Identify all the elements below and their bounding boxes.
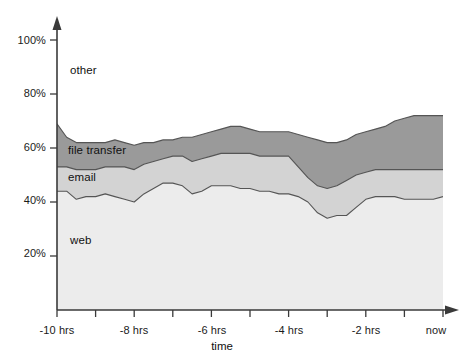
x-tick-label-now: now: [426, 324, 446, 336]
series-label-email: email: [68, 171, 96, 183]
y-tick-label-100: 100%: [6, 34, 46, 46]
y-tick-label-40: 40%: [6, 194, 46, 206]
x-tick-label-minus-6: -6 hrs: [198, 324, 227, 336]
x-tick-label-minus-4: -4 hrs: [275, 324, 304, 336]
area-series-group: [57, 40, 443, 310]
x-tick-label-minus-8: -8 hrs: [120, 324, 149, 336]
x-axis-title: time: [211, 340, 233, 352]
x-axis-arrowhead: [445, 306, 459, 315]
area-web: [57, 183, 443, 310]
y-tick-label-80: 80%: [6, 87, 46, 99]
y-axis-arrowhead: [53, 16, 62, 30]
y-tick-label-60: 60%: [6, 141, 46, 153]
stacked-area-chart: 100% 80% 60% 40% 20% -10 hrs -8 hrs -6 h…: [0, 0, 460, 355]
x-tick-label-minus-2: -2 hrs: [352, 324, 381, 336]
y-tick-label-20: 20%: [6, 247, 46, 259]
series-label-other: other: [70, 64, 97, 76]
x-tick-label-minus-10: -10 hrs: [40, 324, 75, 336]
series-label-web: web: [70, 234, 91, 246]
series-label-file-transfer: file transfer: [68, 144, 126, 156]
